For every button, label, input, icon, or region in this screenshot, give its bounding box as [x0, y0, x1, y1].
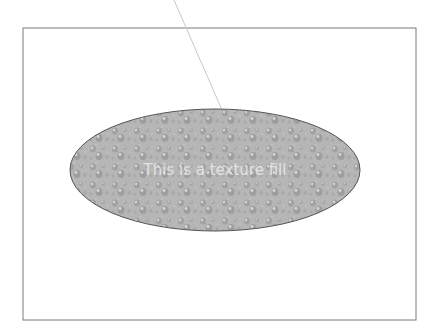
texture-ellipse-shape[interactable]: This is a texture fill [70, 109, 360, 231]
slide-canvas: This is a texture fill [0, 0, 435, 334]
ellipse-label: This is a texture fill [143, 161, 287, 179]
